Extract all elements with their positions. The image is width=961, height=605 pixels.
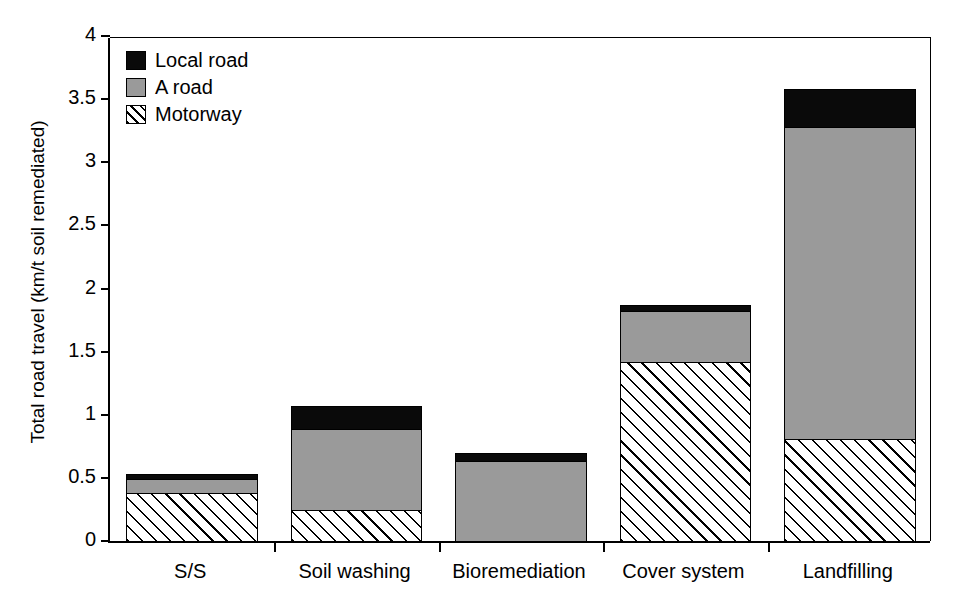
y-tick-label: 2.5 [68, 212, 96, 235]
y-tick-mark [101, 414, 110, 416]
y-tick-label: 3.5 [68, 86, 96, 109]
legend-label: A road [155, 77, 213, 97]
bar-segment-motorway [620, 362, 752, 541]
y-tick-mark [101, 98, 110, 100]
bar-segment-aroad [126, 479, 258, 493]
bar-segment-aroad [620, 311, 752, 362]
x-category-label: Landfilling [766, 560, 930, 583]
bar-chart-figure: Total road travel (km/t soil remediated)… [0, 0, 961, 605]
legend-item-motorway: Motorway [126, 102, 248, 126]
legend-item-local: Local road [126, 48, 248, 72]
legend-swatch-local-icon [126, 51, 146, 70]
x-category-label: S/S [108, 560, 272, 583]
y-tick-mark [101, 540, 110, 542]
legend-swatch-motorway-icon [126, 105, 146, 124]
y-axis-title: Total road travel (km/t soil remediated) [27, 32, 49, 532]
chart-legend: Local roadA roadMotorway [126, 48, 248, 126]
bar-segment-motorway [291, 510, 423, 541]
bar-stack [784, 38, 916, 541]
bar-segment-motorway [126, 493, 258, 541]
y-tick-mark [101, 161, 110, 163]
y-tick-label: 1 [85, 402, 96, 425]
bar-segment-aroad [784, 127, 916, 439]
y-tick-label: 0 [85, 528, 96, 551]
y-tick-mark [101, 351, 110, 353]
y-tick-label: 2 [85, 276, 96, 299]
y-tick-mark [101, 477, 110, 479]
bar-stack [291, 38, 423, 541]
x-category-label: Soil washing [272, 560, 436, 583]
bar-segment-local [455, 453, 587, 462]
x-category-label: Bioremediation [437, 560, 601, 583]
x-tick-mark [768, 541, 770, 552]
x-tick-mark [603, 541, 605, 552]
y-tick-label: 1.5 [68, 339, 96, 362]
y-tick-label: 0.5 [68, 465, 96, 488]
x-tick-mark [274, 541, 276, 552]
y-tick-mark [101, 224, 110, 226]
legend-item-aroad: A road [126, 75, 248, 99]
y-tick-mark [101, 35, 110, 37]
x-category-label: Cover system [601, 560, 765, 583]
bar-segment-local [291, 406, 423, 429]
bar-segment-aroad [291, 429, 423, 510]
legend-label: Local road [155, 50, 248, 70]
legend-swatch-aroad-icon [126, 78, 146, 97]
x-tick-mark [439, 541, 441, 552]
bar-segment-motorway [784, 439, 916, 541]
bar-stack [620, 38, 752, 541]
y-tick-label: 3 [85, 149, 96, 172]
bar-segment-local [784, 89, 916, 127]
bar-segment-aroad [455, 461, 587, 541]
bar-stack [455, 38, 587, 541]
y-tick-label: 4 [85, 23, 96, 46]
legend-label: Motorway [155, 104, 242, 124]
y-tick-mark [101, 288, 110, 290]
